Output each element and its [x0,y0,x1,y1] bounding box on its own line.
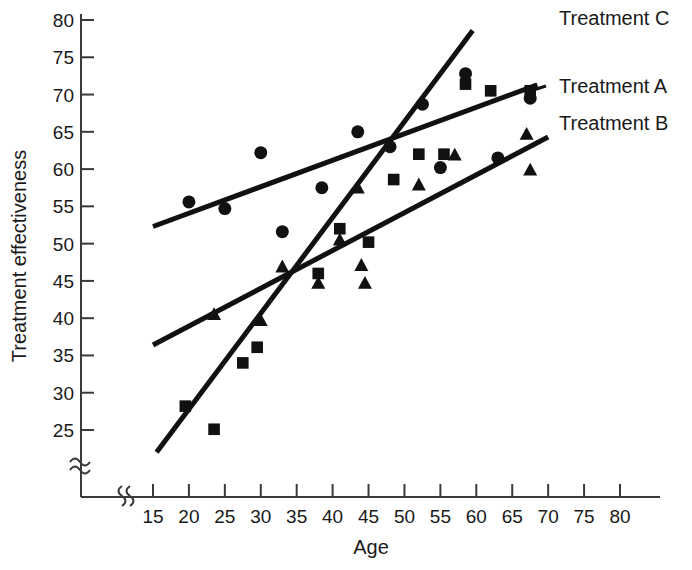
data-point-treatment-c [180,400,192,412]
data-point-treatment-c [388,174,400,186]
data-point-treatment-a [491,151,504,164]
data-point-treatment-a [384,140,397,153]
legend-label-treatment-c[interactable]: Treatment C [559,7,669,29]
data-point-treatment-a [416,98,429,111]
data-point-treatment-b [412,178,426,191]
scatter-chart: 253035404550556065707580 152025303540455… [0,0,692,570]
y-tick-label: 75 [53,47,74,68]
data-point-treatment-a [434,161,447,174]
x-tick-label: 55 [430,506,451,527]
y-tick-label: 30 [53,383,74,404]
data-point-treatment-b [523,163,537,176]
data-point-treatment-a [276,225,289,238]
y-tick-label: 70 [53,85,74,106]
data-point-treatment-c [413,148,425,160]
data-point-treatment-b [275,260,289,273]
y-tick-label: 45 [53,271,74,292]
data-point-treatment-a [459,67,472,80]
data-point-treatment-c [312,268,324,280]
y-axis-ticks: 253035404550556065707580 [53,10,94,441]
x-axis-ticks: 1520253035404550556065707580 [142,484,630,527]
data-point-treatment-c [363,236,375,248]
x-tick-label: 80 [609,506,630,527]
x-tick-label: 40 [322,506,343,527]
y-tick-label: 50 [53,234,74,255]
data-point-treatment-a [218,202,231,215]
x-axis-title: Age [353,536,389,558]
data-point-treatment-c [237,357,249,369]
data-point-treatment-b [354,258,368,271]
data-point-treatment-b [520,127,534,140]
chart-canvas: 253035404550556065707580 152025303540455… [0,0,692,570]
data-point-treatment-c [438,148,450,160]
data-point-treatment-b [448,148,462,161]
x-tick-label: 60 [466,506,487,527]
x-tick-label: 30 [250,506,271,527]
data-point-treatment-a [254,146,267,159]
data-point-treatment-b [358,276,372,289]
x-tick-label: 75 [574,506,595,527]
y-tick-label: 35 [53,345,74,366]
y-tick-label: 65 [53,122,74,143]
data-point-treatment-c [208,423,220,435]
data-point-treatment-a [351,125,364,138]
y-axis-title: Treatment effectiveness [8,150,30,362]
y-tick-label: 80 [53,10,74,31]
data-point-treatment-c [251,341,263,353]
x-tick-label: 25 [214,506,235,527]
axis-break-group [70,459,134,507]
data-point-treatment-b [333,233,347,246]
y-tick-label: 60 [53,159,74,180]
data-point-treatment-c [460,78,472,90]
trend-line-treatment-a [153,85,537,227]
data-point-treatment-c [485,85,497,97]
y-tick-label: 25 [53,420,74,441]
x-tick-label: 50 [394,506,415,527]
data-markers-group [180,67,538,435]
x-tick-label: 20 [178,506,199,527]
data-point-treatment-a [182,195,195,208]
x-tick-label: 70 [538,506,559,527]
data-point-treatment-c [334,223,346,235]
x-tick-label: 45 [358,506,379,527]
legend-label-treatment-a[interactable]: Treatment A [559,75,668,97]
legend-label-treatment-b[interactable]: Treatment B [559,112,668,134]
y-tick-label: 40 [53,308,74,329]
data-point-treatment-a [315,181,328,194]
x-tick-label: 35 [286,506,307,527]
trend-line-treatment-c [157,30,473,452]
x-tick-label: 65 [502,506,523,527]
y-tick-label: 55 [53,196,74,217]
x-tick-label: 15 [142,506,163,527]
